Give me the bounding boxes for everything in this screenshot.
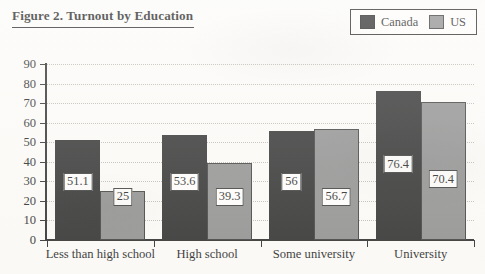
figure-title: Figure 2. Turnout by Education	[12, 8, 193, 24]
us-swatch-icon	[429, 15, 444, 29]
y-axis-tick	[40, 181, 46, 182]
bar-chart: 51.12553.639.35656.776.470.4 01020304050…	[0, 50, 485, 274]
x-axis-category-label: Less than high school	[46, 248, 155, 261]
bar-value-label: 39.3	[215, 188, 244, 206]
bar-value-label: 56.7	[322, 188, 351, 206]
y-axis-tick	[40, 123, 46, 124]
x-axis-category-label: University	[394, 248, 447, 261]
y-axis-tick	[40, 142, 46, 143]
bar-group: 51.125	[47, 64, 154, 240]
canada-swatch-icon	[360, 15, 375, 29]
y-axis-tick-label: 0	[30, 234, 36, 247]
y-axis-tick-label: 40	[23, 155, 36, 168]
x-axis-tick	[154, 240, 155, 247]
x-axis-tick	[47, 240, 48, 247]
bar-canada-3[interactable]: 76.4	[376, 91, 421, 240]
plot-area: 51.12553.639.35656.776.470.4	[47, 64, 474, 240]
title-underline	[12, 27, 194, 28]
bar-value-label: 53.6	[170, 173, 199, 191]
y-axis-tick-label: 50	[23, 136, 36, 149]
bar-us-0[interactable]: 25	[100, 191, 145, 240]
y-axis-tick-label: 10	[23, 214, 36, 227]
y-axis-tick	[40, 201, 46, 202]
y-axis-tick	[40, 84, 46, 85]
x-axis-category-label: High school	[177, 248, 238, 261]
bar-value-label: 25	[113, 188, 132, 206]
x-axis-tick	[261, 240, 262, 247]
legend-entry-canada: Canada	[360, 15, 418, 29]
y-axis-tick-label: 70	[23, 97, 36, 110]
x-axis-tick	[474, 240, 475, 247]
bar-us-3[interactable]: 70.4	[421, 102, 466, 240]
bar-group: 76.470.4	[367, 64, 474, 240]
bar-group: 5656.7	[261, 64, 368, 240]
bar-value-label: 56	[282, 173, 301, 191]
y-axis-tick-label: 30	[23, 175, 36, 188]
bar-canada-0[interactable]: 51.1	[55, 140, 100, 240]
y-axis-tick-label: 90	[23, 58, 36, 71]
y-axis-tick-label: 80	[23, 77, 36, 90]
bar-value-label: 76.4	[384, 155, 413, 173]
bar-us-2[interactable]: 56.7	[314, 129, 359, 240]
y-axis-tick	[40, 240, 46, 241]
chart-legend: Canada US	[350, 9, 477, 35]
bar-canada-1[interactable]: 53.6	[162, 135, 207, 240]
bar-value-label: 51.1	[64, 173, 93, 191]
bar-canada-2[interactable]: 56	[269, 131, 314, 241]
x-axis-category-label: Some university	[273, 248, 355, 261]
y-axis-tick	[40, 220, 46, 221]
y-axis-tick	[40, 64, 46, 65]
bar-value-label: 70.4	[429, 170, 458, 188]
y-axis-tick	[40, 103, 46, 104]
y-axis-tick-label: 60	[23, 116, 36, 129]
bar-group: 53.639.3	[154, 64, 261, 240]
legend-label-canada: Canada	[381, 16, 418, 28]
legend-label-us: US	[450, 16, 466, 28]
bar-us-1[interactable]: 39.3	[207, 163, 252, 240]
y-axis-tick	[40, 162, 46, 163]
y-axis-tick-label: 20	[23, 195, 36, 208]
x-axis-tick	[367, 240, 368, 247]
legend-entry-us: US	[429, 15, 466, 29]
